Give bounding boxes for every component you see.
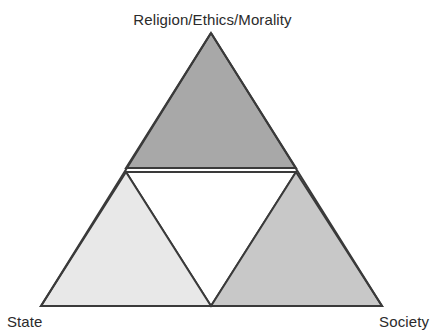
triangle-diagram-canvas [0,0,435,335]
apex-label: Religion/Ethics/Morality [0,12,430,27]
bottom-right-label: Society [379,314,429,329]
bottom-left-label: State [7,314,43,329]
triangle-diagram: Religion/Ethics/Morality State Society [0,0,435,335]
